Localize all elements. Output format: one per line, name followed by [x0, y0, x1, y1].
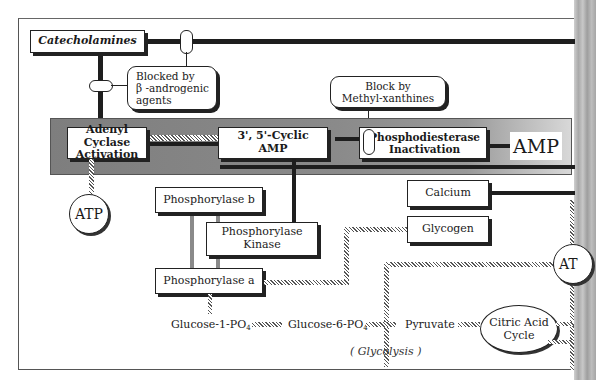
atp-to-adenyl-link: [89, 159, 94, 195]
calcium-line: [490, 191, 575, 195]
calcium-label: Calcium: [425, 187, 471, 200]
citric-line1: Citric Acid: [489, 316, 548, 329]
adenyl-line2: Activation: [68, 149, 146, 162]
pde-line1: Phosphodiesterase: [369, 131, 480, 143]
glycogen-path-vertical: [344, 227, 349, 283]
citric-to-right-link-2: [548, 340, 574, 344]
page-spine-edge: [574, 0, 596, 380]
band-lower-line: [220, 165, 575, 169]
adenyl-to-camp-link: [145, 135, 220, 141]
phosphorylase-b-node: Phosphorylase b: [155, 187, 263, 213]
blocked-beta-line2: β -androgenic: [136, 82, 209, 94]
beta-block-connector: [186, 52, 187, 66]
glycogen-node: Glycogen: [407, 216, 489, 243]
pyruvate-to-citric-link: [458, 322, 480, 327]
phosphorylase-a-to-glucose1-link: [208, 294, 212, 314]
atp-label: ATP: [75, 206, 103, 222]
amp-label: AMP: [513, 135, 559, 157]
atp-right-node: AT: [553, 244, 593, 284]
glucose1-to-glucose6-link: [252, 322, 282, 327]
glucose-1-phosphate-label: Glucose-1-PO4: [171, 318, 251, 332]
pde-block-site: [363, 129, 375, 155]
glucose-6-phosphate-label: Glucose-6-PO4: [288, 318, 368, 332]
blocked-beta-note: Blocked by β -androgenic agents: [127, 66, 217, 110]
phosphorylase-a-node: Phosphorylase a: [155, 268, 263, 294]
glycogen-path-horizontal: [346, 227, 407, 232]
catecholamine-signal-line: [145, 39, 575, 44]
phosphodiesterase-node: Phosphodiesterase Inactivation: [359, 127, 487, 159]
adenyl-line1: Adenyl Cyclase: [68, 124, 146, 149]
kinase-line2: Kinase: [221, 239, 302, 252]
phosphorylase-a-to-glycogen-path: [264, 280, 349, 285]
glycolysis-label: ( Glycolysis ): [350, 345, 421, 358]
alpha-block-connector: [111, 85, 127, 86]
methylxanthine-line1: Block by: [342, 80, 434, 92]
citric-to-right-link-1: [556, 322, 574, 326]
beta-block-site: [180, 30, 193, 54]
adenyl-cyclase-node: Adenyl Cyclase Activation: [67, 127, 147, 159]
alpha-block-site: [89, 80, 113, 92]
atp-node: ATP: [69, 194, 109, 234]
phosphorylase-b-to-a-line-1: [190, 212, 194, 268]
blocked-beta-line1: Blocked by: [136, 70, 209, 82]
pde-to-amp-line: [490, 144, 510, 148]
catecholamines-node: Catecholamines: [30, 30, 145, 53]
calcium-node: Calcium: [407, 180, 489, 207]
phosphorylase-b-label: Phosphorylase b: [163, 194, 255, 207]
cyclic-amp-node: 3', 5'-Cyclic AMP: [218, 127, 328, 159]
amp-node: AMP: [510, 132, 562, 160]
methylxanthine-note: Block by Methyl-xanthines: [330, 76, 446, 108]
camp-line2: AMP: [237, 143, 308, 156]
pde-line2: Inactivation: [369, 143, 480, 155]
atp-right-path-horizontal: [384, 262, 554, 267]
citric-line2: Cycle: [489, 329, 548, 342]
camp-to-kinase-line: [292, 159, 296, 224]
pyruvate-label: Pyruvate: [405, 318, 455, 331]
adenyl-to-camp-line: [145, 142, 220, 146]
phosphorylase-a-label: Phosphorylase a: [163, 275, 254, 288]
catecholamines-label: Catecholamines: [38, 35, 136, 48]
blocked-beta-line3: agents: [136, 94, 209, 106]
glycogen-label: Glycogen: [422, 223, 474, 236]
citric-acid-cycle-node: Citric Acid Cycle: [480, 305, 558, 353]
phosphorylase-kinase-node: Phosphorylase Kinase: [206, 222, 318, 256]
atp-right-label: AT: [559, 256, 578, 272]
methylxanthine-line2: Methyl-xanthines: [342, 92, 434, 104]
right-edge-hatch: [570, 200, 574, 370]
glucose6-to-pyruvate-link: [366, 322, 396, 327]
